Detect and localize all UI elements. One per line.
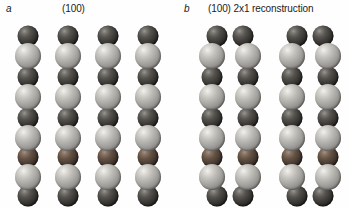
atom-panel-a-c2-r5 xyxy=(95,125,121,151)
atom-panel-b-c2-r7 xyxy=(279,164,305,190)
atom-panel-b-c1-r3 xyxy=(235,84,261,110)
atom-panel-a-c3-r1 xyxy=(135,43,161,69)
atom-panel-a-c3-r3 xyxy=(135,84,161,110)
atom-panel-b-c1-r5 xyxy=(235,125,261,151)
atom-panel-a-c2-r1 xyxy=(95,43,121,69)
atom-panel-b-c0-r3 xyxy=(199,84,225,110)
atom-panel-b-c0-r1 xyxy=(199,43,225,69)
atom-panel-b-c2-r1 xyxy=(279,43,305,69)
panel-b-letter: b xyxy=(184,3,190,14)
atom-panel-b-c3-r1 xyxy=(315,43,341,69)
atom-panel-b-c2-r3 xyxy=(279,84,305,110)
atom-panel-a-c1-r7 xyxy=(55,164,81,190)
atom-panel-b-c0-r7 xyxy=(199,164,225,190)
atom-panel-a-c1-r5 xyxy=(55,125,81,151)
atom-panel-a-c1-r1 xyxy=(55,43,81,69)
atom-panel-b-c0-r5 xyxy=(199,125,225,151)
atom-panel-a-c2-r3 xyxy=(95,84,121,110)
atom-panel-a-c3-r5 xyxy=(135,125,161,151)
atom-panel-a-c0-r1 xyxy=(15,43,41,69)
panel-a-letter: a xyxy=(6,3,12,14)
atom-panel-b-c1-r1 xyxy=(235,43,261,69)
atom-panel-a-c3-r7 xyxy=(135,164,161,190)
panel-a-title: (100) xyxy=(62,3,85,14)
atom-panel-a-c2-r7 xyxy=(95,164,121,190)
crystal-surface-figure: a (100) b (100) 2x1 reconstruction xyxy=(0,0,350,209)
atom-panel-a-c0-r3 xyxy=(15,84,41,110)
panel-b-title: (100) 2x1 reconstruction xyxy=(208,3,313,14)
atom-panel-b-c2-r5 xyxy=(279,125,305,151)
atom-panel-a-c0-r5 xyxy=(15,125,41,151)
atom-panel-b-c3-r5 xyxy=(315,125,341,151)
atom-panel-a-c1-r3 xyxy=(55,84,81,110)
atom-panel-b-c1-r7 xyxy=(235,164,261,190)
atom-panel-a-c0-r7 xyxy=(15,164,41,190)
atom-panel-b-c3-r7 xyxy=(315,164,341,190)
atom-panel-b-c3-r3 xyxy=(315,84,341,110)
